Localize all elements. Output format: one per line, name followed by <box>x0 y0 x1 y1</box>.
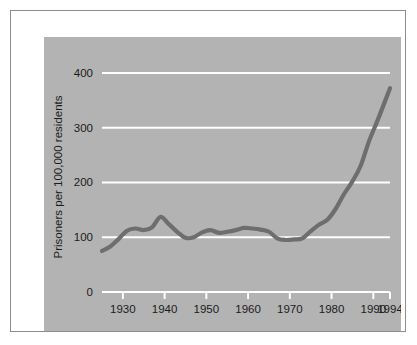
x-tick-label-1940: 1940 <box>152 303 178 315</box>
x-tick-label-1980: 1980 <box>319 303 345 315</box>
data-line-0 <box>102 88 390 251</box>
x-tick-labels-group: 19301940195019601970198019901994 <box>110 303 401 315</box>
y-tick-labels-group: 0100200300400 <box>74 67 93 298</box>
gridlines-group <box>102 73 390 237</box>
y-tick-label-200: 200 <box>74 176 93 188</box>
y-tick-label-300: 300 <box>74 122 93 134</box>
x-tick-marks-group <box>123 292 390 299</box>
x-tick-label-1994: 1994 <box>377 303 401 315</box>
y-tick-label-400: 400 <box>74 67 93 79</box>
figure-root: 0100200300400 19301940195019601970198019… <box>0 0 417 345</box>
x-tick-label-1970: 1970 <box>277 303 303 315</box>
data-series-group <box>102 88 390 251</box>
x-tick-label-1950: 1950 <box>194 303 220 315</box>
y-tick-label-100: 100 <box>74 231 93 243</box>
figure-frame: 0100200300400 19301940195019601970198019… <box>10 10 406 332</box>
x-tick-label-1930: 1930 <box>110 303 136 315</box>
y-tick-label-0: 0 <box>87 286 93 298</box>
x-tick-label-1960: 1960 <box>235 303 261 315</box>
line-chart-svg: 0100200300400 19301940195019601970198019… <box>44 37 401 331</box>
y-axis-title: Prisoners per 100,000 residents <box>52 95 64 258</box>
y-axis-title-group: Prisoners per 100,000 residents <box>52 95 64 258</box>
plot-panel: 0100200300400 19301940195019601970198019… <box>44 37 401 331</box>
